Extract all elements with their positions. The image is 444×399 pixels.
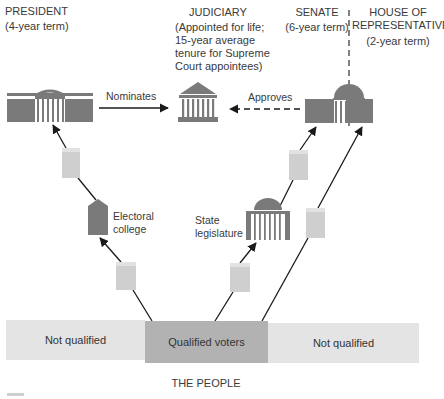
legend-swatch [7,393,24,396]
people-segment-qualified-voters: Qualified voters [145,321,268,363]
state-legislature-label: State legislature [195,214,243,240]
ballot-box-senate-icon [289,150,308,180]
electoral-college-icon [88,199,108,235]
electoral-college-line-2: college [113,223,154,236]
ballot-box-house-icon [306,208,325,238]
the-people-caption: THE PEOPLE [160,377,252,390]
nominates-label: Nominates [106,90,156,103]
ballot-box-electoral-icon [116,262,136,290]
electoral-college-label: Electoral college [113,210,154,236]
congress-building-icon [305,84,373,123]
electoral-college-line-1: Electoral [113,210,154,223]
judiciary-building-icon [178,82,218,122]
segment-label: Not qualified [45,334,106,346]
segment-label: Not qualified [313,337,374,349]
state-legislature-building-icon [246,198,290,240]
state-legislature-line-2: legislature [195,227,243,240]
ballot-box-state-legislature-icon [230,263,250,292]
segment-label: Qualified voters [168,336,244,348]
state-legislature-line-1: State [195,214,243,227]
people-segment-not-qualified-right: Not qualified [268,323,419,363]
ballot-box-president-icon [62,148,80,178]
approves-label: Approves [248,91,292,104]
people-segment-not-qualified-left: Not qualified [6,320,145,360]
president-building-icon [7,91,93,122]
